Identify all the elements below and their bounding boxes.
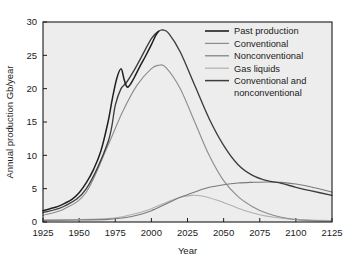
legend-label: Nonconventional: [234, 51, 303, 61]
y-tick-label: 10: [26, 150, 37, 161]
legend-label: Conventional and: [234, 76, 306, 86]
x-tick-label: 2050: [213, 227, 234, 238]
x-tick-label: 2000: [141, 227, 162, 238]
legend-label-continued: nonconventional: [234, 88, 302, 98]
y-tick-label: 0: [32, 216, 37, 227]
x-tick-label: 1925: [32, 227, 53, 238]
y-tick-label: 5: [32, 183, 37, 194]
y-axis-title: Annual production Gb/year: [4, 65, 15, 178]
legend-label: Past production: [234, 26, 299, 36]
legend-label: Gas liquids: [234, 64, 280, 74]
x-tick-label: 2100: [285, 227, 306, 238]
legend-label: Conventional: [234, 39, 288, 49]
x-tick-label: 2125: [321, 227, 342, 238]
x-tick-label: 2025: [177, 227, 198, 238]
x-axis-title: Year: [178, 245, 197, 256]
x-tick-label: 1950: [69, 227, 90, 238]
x-tick-label: 1975: [105, 227, 126, 238]
production-line-chart: 192519501975200020252050207521002125 051…: [0, 0, 348, 270]
y-tick-label: 25: [26, 50, 37, 61]
x-axis-tick-labels: 192519501975200020252050207521002125: [32, 227, 342, 238]
y-tick-label: 20: [26, 83, 37, 94]
y-tick-label: 30: [26, 16, 37, 27]
y-tick-label: 15: [26, 116, 37, 127]
x-tick-label: 2075: [249, 227, 270, 238]
chart-figure: 192519501975200020252050207521002125 051…: [0, 0, 348, 270]
